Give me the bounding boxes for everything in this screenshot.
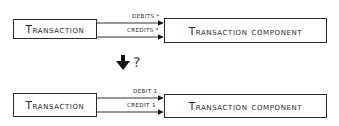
edge-label-debits: DEBITS * xyxy=(132,13,160,19)
transaction-component-label: Transaction Component xyxy=(189,100,303,112)
transaction-component-label: Transaction Component xyxy=(189,25,303,37)
transaction-label: Transaction xyxy=(26,99,85,111)
transaction-component-box-top: Transaction Component xyxy=(164,18,327,43)
transaction-label: Transaction xyxy=(26,23,85,35)
edge-label-debit: DEBIT 1 xyxy=(133,88,158,94)
edge-label-credits: CREDITS * xyxy=(127,27,159,33)
transaction-box-bottom: Transaction xyxy=(13,93,97,117)
down-arrow-icon xyxy=(116,55,130,70)
transaction-box-top: Transaction xyxy=(13,19,97,39)
edge-label-credit: CREDIT 1 xyxy=(127,102,156,108)
transaction-component-box-bottom: Transaction Component xyxy=(164,94,327,118)
question-mark: ? xyxy=(133,54,140,70)
